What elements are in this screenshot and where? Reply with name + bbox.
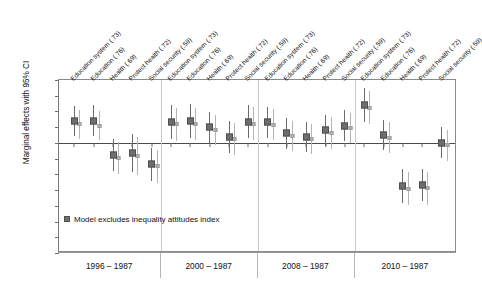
estimate-marker-full-model xyxy=(118,80,119,253)
legend-swatch-icon xyxy=(64,216,70,222)
group-label-cell: 1996 – 1987 xyxy=(58,252,160,278)
point-estimate-marker xyxy=(148,161,155,168)
point-estimate-marker xyxy=(438,139,445,146)
y-axis-tick-mark xyxy=(55,237,59,238)
point-estimate-marker xyxy=(361,101,368,108)
y-axis-tick-mark xyxy=(55,174,59,175)
estimate-marker-excludes-index xyxy=(383,80,384,253)
point-estimate-marker xyxy=(168,119,175,126)
estimate-marker-full-model xyxy=(176,80,177,253)
point-estimate-marker xyxy=(245,118,252,125)
estimate-marker-excludes-index xyxy=(441,80,442,253)
point-estimate-marker xyxy=(380,132,387,139)
point-estimate-marker xyxy=(303,133,310,140)
group-band: 1996 – 19872000 – 19872008 – 19872010 – … xyxy=(58,252,456,278)
point-estimate-marker xyxy=(329,131,333,135)
point-estimate-marker xyxy=(187,117,194,124)
point-estimate-marker xyxy=(348,126,352,130)
point-estimate-marker xyxy=(252,122,256,126)
point-estimate-marker xyxy=(206,124,213,131)
estimate-marker-excludes-index xyxy=(248,80,249,253)
group-separator xyxy=(161,80,162,251)
point-estimate-marker xyxy=(213,128,217,132)
estimate-marker-full-model xyxy=(369,80,370,253)
estimate-marker-full-model xyxy=(273,80,274,253)
group-label-cell: 2010 – 1987 xyxy=(354,252,456,278)
point-estimate-marker xyxy=(110,151,117,158)
estimate-marker-excludes-index xyxy=(113,80,114,253)
point-estimate-marker xyxy=(194,122,198,126)
y-axis-tick-mark xyxy=(55,159,59,160)
group-separator xyxy=(355,80,356,251)
estimate-marker-excludes-index xyxy=(93,80,94,253)
point-estimate-marker xyxy=(310,137,314,141)
estimate-marker-full-model xyxy=(234,80,235,253)
point-estimate-marker xyxy=(387,136,391,140)
y-axis-tick-mark xyxy=(55,206,59,207)
point-estimate-marker xyxy=(283,130,290,137)
point-estimate-marker xyxy=(271,123,275,127)
y-axis-tick-mark xyxy=(55,127,59,128)
point-estimate-marker xyxy=(97,124,101,128)
estimate-marker-full-model xyxy=(311,80,312,253)
estimate-marker-excludes-index xyxy=(267,80,268,253)
point-estimate-marker xyxy=(290,134,294,138)
estimate-marker-full-model xyxy=(215,80,216,253)
estimate-marker-full-model xyxy=(79,80,80,253)
estimate-marker-excludes-index xyxy=(171,80,172,253)
estimate-marker-excludes-index xyxy=(151,80,152,253)
group-label: 2010 – 1987 xyxy=(382,261,429,271)
estimate-marker-excludes-index xyxy=(74,80,75,253)
point-estimate-marker xyxy=(117,156,121,160)
y-axis-tick-mark xyxy=(55,222,59,223)
point-estimate-marker xyxy=(399,182,406,189)
point-estimate-marker xyxy=(78,122,82,126)
point-estimate-marker xyxy=(233,137,237,141)
point-estimate-marker xyxy=(426,186,430,190)
point-estimate-marker xyxy=(71,117,78,124)
estimate-marker-excludes-index xyxy=(209,80,210,253)
legend-label: Model excludes inequality attitudes inde… xyxy=(74,215,219,224)
point-estimate-marker xyxy=(90,117,97,124)
point-estimate-marker xyxy=(445,143,449,147)
estimate-marker-full-model xyxy=(137,80,138,253)
estimate-marker-excludes-index xyxy=(422,80,423,253)
estimate-marker-excludes-index xyxy=(402,80,403,253)
estimate-marker-excludes-index xyxy=(229,80,230,253)
estimate-marker-full-model xyxy=(99,80,100,253)
estimate-marker-full-model xyxy=(389,80,390,253)
point-estimate-marker xyxy=(406,187,410,191)
plot-area: 0.200.150.100.050.00-0.05-0.10-0.15-0.20… xyxy=(58,79,456,252)
group-label: 2000 – 1987 xyxy=(185,261,232,271)
estimate-marker-full-model xyxy=(292,80,293,253)
estimate-marker-full-model xyxy=(350,80,351,253)
plot-inner: 0.200.150.100.050.00-0.05-0.10-0.15-0.20… xyxy=(59,80,455,251)
y-axis-tick-mark xyxy=(55,80,59,81)
point-estimate-marker xyxy=(129,149,136,156)
y-axis-tick-mark xyxy=(55,96,59,97)
point-estimate-marker xyxy=(136,154,140,158)
y-axis-tick-mark xyxy=(55,190,59,191)
estimate-marker-excludes-index xyxy=(132,80,133,253)
estimate-marker-full-model xyxy=(195,80,196,253)
group-separator xyxy=(258,80,259,251)
estimate-marker-excludes-index xyxy=(364,80,365,253)
chart-legend: Model excludes inequality attitudes inde… xyxy=(64,215,219,224)
estimate-marker-full-model xyxy=(253,80,254,253)
estimate-marker-full-model xyxy=(157,80,158,253)
point-estimate-marker xyxy=(155,164,159,168)
estimate-marker-full-model xyxy=(331,80,332,253)
point-estimate-marker xyxy=(175,122,179,126)
point-estimate-marker xyxy=(226,133,233,140)
estimate-marker-full-model xyxy=(427,80,428,253)
estimate-marker-excludes-index xyxy=(306,80,307,253)
point-estimate-marker xyxy=(341,122,348,129)
estimate-marker-excludes-index xyxy=(286,80,287,253)
point-estimate-marker xyxy=(322,127,329,134)
estimate-marker-full-model xyxy=(447,80,448,253)
group-label: 2008 – 1987 xyxy=(282,261,329,271)
group-label-cell: 2000 – 1987 xyxy=(160,252,257,278)
estimate-marker-excludes-index xyxy=(325,80,326,253)
y-axis-title: Marginal effects with 95% CI xyxy=(22,33,31,193)
